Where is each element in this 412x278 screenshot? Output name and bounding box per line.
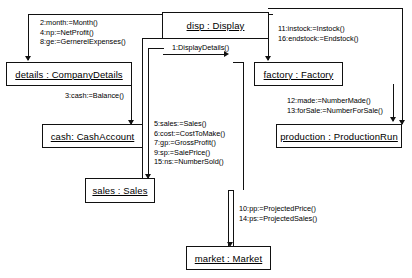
message-group-details-to-cash: 3:cash:=Balance() (65, 91, 124, 101)
message-9: 9:sp:=SalePrice() (154, 148, 225, 158)
message-group-disp-to-sales: 5:sales:=Sales() 6:cost:=CostToMake() 7:… (154, 119, 225, 167)
message-15: 15:ns:=NumberSold() (154, 157, 225, 167)
object-label-market: market : Market (195, 253, 263, 264)
message-5: 5:sales:=Sales() (154, 119, 225, 129)
uml-communication-diagram: disp : Display details : CompanyDetails … (0, 0, 412, 278)
connector-sales-to-market-b (233, 190, 234, 246)
connector-disp-col-a-top (142, 38, 164, 39)
message-group-sales-to-market: 10:pp:=ProjectedPrice() 14:ps:=Projected… (239, 204, 317, 223)
message-group-disp-to-details: 2:month:=Month() 4:np:=NetProfit() 8:ge:… (40, 18, 126, 47)
object-label-factory: factory : Factory (264, 69, 334, 80)
connector-details-to-cash-vert (131, 84, 132, 124)
message-13: 13:forSale:=NumberForSale() (287, 106, 383, 116)
connector-disp-to-market-col (243, 62, 244, 190)
message-group-actor-to-disp: 1:DisplayDetails() (172, 43, 229, 53)
message-12: 12:made:=NumberMade() (287, 96, 383, 106)
connector-sales-rail (228, 190, 234, 191)
message-10: 10:pp:=ProjectedPrice() (239, 204, 317, 214)
message-8: 8:ge:=GernerelExpenses() (40, 37, 126, 47)
message-1: 1:DisplayDetails() (172, 43, 229, 53)
object-details-companydetails[interactable]: details : CompanyDetails (6, 62, 132, 86)
connector-disp-col-a (142, 38, 143, 179)
message-group-factory-to-production: 12:made:=NumberMade() 13:forSale:=Number… (287, 96, 383, 115)
object-label-production: production : ProductionRun (280, 131, 398, 142)
connector-display-details (163, 54, 225, 55)
object-disp-display[interactable]: disp : Display (162, 12, 269, 39)
message-7: 7:gp:=GrossProfit() (154, 138, 225, 148)
object-label-details: details : CompanyDetails (15, 69, 122, 80)
arrowhead-details-in (25, 56, 31, 61)
message-6: 6:cost:=CostToMake() (154, 129, 225, 139)
connector-outer-right (402, 8, 403, 124)
object-label-disp: disp : Display (187, 20, 245, 31)
connector-sales-to-market-a (228, 190, 229, 246)
object-production-productionrun[interactable]: production : ProductionRun (276, 124, 402, 148)
object-factory-factory[interactable]: factory : Factory (254, 62, 343, 86)
message-4: 4:np:=NetProfit() (40, 28, 126, 38)
arrowhead-production-in (390, 117, 396, 122)
arrowhead-factory-in (265, 56, 271, 61)
connector-disp-to-details-vert (28, 14, 29, 60)
message-group-disp-to-factory: 11:instock:=Instock() 16:endstock:=Endst… (278, 24, 359, 43)
object-label-sales: sales : Sales (92, 185, 147, 196)
connector-disp-to-market-col-top (233, 62, 244, 63)
object-label-cash: cash: CashAccount (51, 131, 135, 142)
object-sales-sales[interactable]: sales : Sales (85, 178, 155, 203)
message-2: 2:month:=Month() (40, 18, 126, 28)
message-3: 3:cash:=Balance() (65, 91, 124, 101)
message-14: 14:ps:=ProjectedSales() (239, 214, 317, 224)
message-16: 16:endstock:=Endstock() (278, 34, 359, 44)
connector-factory-to-production (393, 84, 394, 121)
object-cash-cashaccount[interactable]: cash: CashAccount (42, 124, 143, 148)
connector-outer-top (268, 8, 403, 9)
message-11: 11:instock:=Instock() (278, 24, 359, 34)
object-market-market[interactable]: market : Market (186, 246, 271, 270)
connector-disp-to-details-top (28, 14, 163, 15)
connector-disp-col-b-top (148, 48, 164, 49)
connector-disp-col-b (148, 48, 149, 179)
